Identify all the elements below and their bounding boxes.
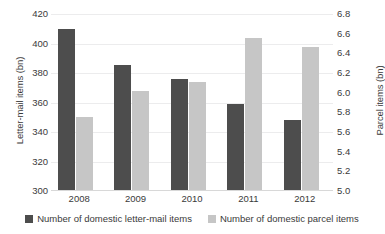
bar[interactable] [114, 65, 131, 191]
bar[interactable] [58, 29, 75, 191]
legend-item[interactable]: Number of domestic letter-mail items [25, 213, 192, 224]
legend-label: Number of domestic parcel items [220, 213, 359, 224]
y-axis-right-tick: 6.4 [337, 48, 350, 58]
bar[interactable] [302, 47, 319, 191]
bar[interactable] [189, 82, 206, 191]
y-axis-right-tick: 6.2 [337, 68, 350, 78]
bar[interactable] [227, 104, 244, 191]
bar-group [51, 14, 107, 191]
bar[interactable] [284, 120, 301, 191]
y-axis-right-tick: 5.2 [337, 166, 350, 176]
x-axis-tick: 2010 [164, 193, 220, 204]
x-axis-tick: 2011 [220, 193, 276, 204]
legend-swatch-icon [208, 215, 216, 223]
y-axis-left-tick: 320 [32, 157, 48, 167]
y-axis-left-tick: 400 [32, 39, 48, 49]
bar[interactable] [76, 117, 93, 191]
bar-group [107, 14, 163, 191]
y-axis-right-tick: 5.0 [337, 186, 350, 196]
legend-swatch-icon [25, 215, 33, 223]
bar-group [164, 14, 220, 191]
legend-item[interactable]: Number of domestic parcel items [208, 213, 359, 224]
y-axis-right-tick: 6.8 [337, 9, 350, 19]
chart-legend: Number of domestic letter-mail itemsNumb… [0, 213, 384, 224]
y-axis-right-ticks: 6.86.66.46.26.05.85.65.45.25.0 [334, 0, 364, 200]
y-axis-right-tick: 6.6 [337, 29, 350, 39]
plot-area [51, 14, 333, 191]
bar[interactable] [245, 38, 262, 191]
y-axis-left-ticks: 420400380360340320300 [20, 0, 50, 200]
bar-group [220, 14, 276, 191]
x-axis-tick: 2008 [51, 193, 107, 204]
bar[interactable] [132, 91, 149, 191]
x-axis-ticks: 20082009201020112012 [51, 193, 333, 209]
bar[interactable] [171, 79, 188, 191]
y-axis-right-tick: 5.6 [337, 127, 350, 137]
x-axis-tick: 2012 [277, 193, 333, 204]
x-axis-line [51, 190, 333, 191]
x-axis-tick: 2009 [108, 193, 164, 204]
y-axis-right-title: Parcel items (bn) [374, 26, 385, 176]
bar-group [277, 14, 333, 191]
y-axis-right-tick: 5.8 [337, 107, 350, 117]
y-axis-left-tick: 340 [32, 127, 48, 137]
y-axis-left-tick: 360 [32, 98, 48, 108]
y-axis-right-tick: 6.0 [337, 88, 350, 98]
legend-label: Number of domestic letter-mail items [37, 213, 192, 224]
y-axis-left-tick: 380 [32, 68, 48, 78]
y-axis-right-tick: 5.4 [337, 147, 350, 157]
y-axis-left-tick: 300 [32, 186, 48, 196]
y-axis-left-tick: 420 [32, 9, 48, 19]
